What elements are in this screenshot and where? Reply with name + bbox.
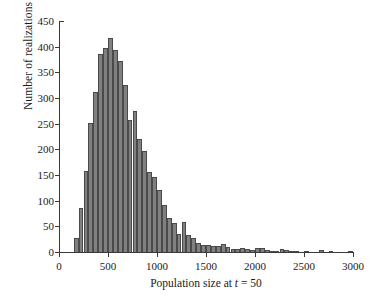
histogram-figure: Number of realizations Population size a… (0, 0, 373, 298)
y-tick-label: 150 (14, 170, 54, 181)
y-tick-label: 450 (14, 16, 54, 27)
x-tick-mark (108, 252, 109, 257)
x-tick-label: 3000 (342, 260, 364, 272)
y-tick-label: 250 (14, 119, 54, 130)
y-tick-label: 0 (14, 247, 54, 258)
x-tick-mark (255, 252, 256, 257)
histogram-bar (329, 251, 334, 252)
y-tick-label: 50 (14, 221, 54, 232)
x-axis-title-suffix: = 50 (238, 277, 262, 289)
histogram-bar (304, 251, 309, 252)
x-tick-label: 500 (100, 260, 117, 272)
x-axis-title: Population size at t = 50 (59, 277, 353, 289)
y-tick-label: 200 (14, 144, 54, 155)
x-tick-label: 1500 (195, 260, 217, 272)
histogram-bars (59, 21, 353, 252)
x-tick-mark (206, 252, 207, 257)
histogram-bar (348, 251, 353, 252)
x-axis-title-prefix: Population size at (150, 277, 235, 289)
x-tick-label: 1000 (146, 260, 168, 272)
x-tick-label: 2500 (293, 260, 315, 272)
histogram-bar (294, 251, 299, 252)
y-tick-label: 100 (14, 196, 54, 207)
x-tick-mark (353, 252, 354, 257)
x-tick-mark (157, 252, 158, 257)
y-tick-label: 350 (14, 67, 54, 78)
x-tick-mark (59, 252, 60, 257)
histogram-bar (319, 250, 324, 252)
plot-area: 050100150200250300350400450 050010001500… (59, 21, 353, 252)
x-tick-label: 0 (56, 260, 62, 272)
x-tick-mark (304, 252, 305, 257)
y-tick-label: 300 (14, 93, 54, 104)
x-tick-label: 2000 (244, 260, 266, 272)
y-tick-label: 400 (14, 42, 54, 53)
